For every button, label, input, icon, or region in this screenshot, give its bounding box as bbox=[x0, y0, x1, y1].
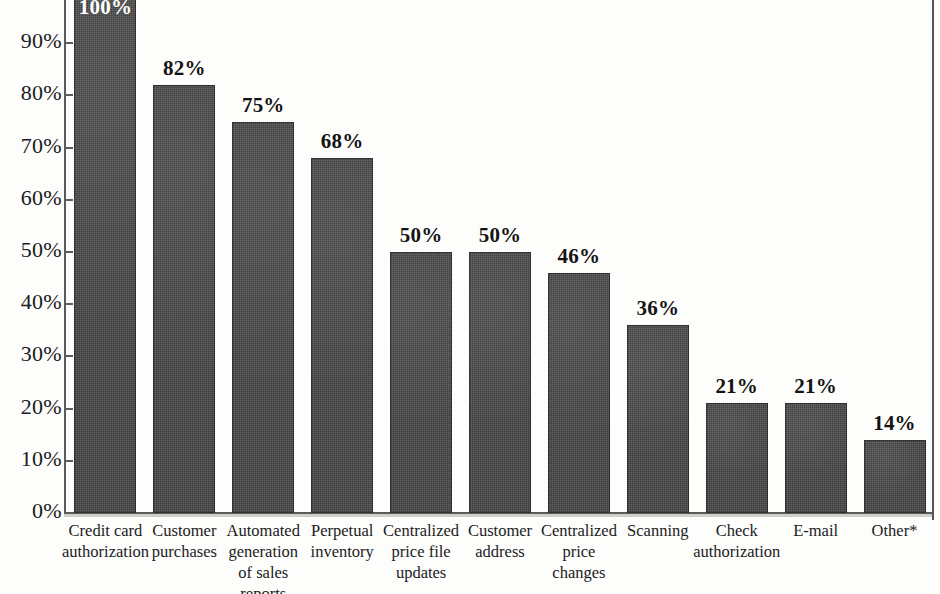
bar-value-label: 46% bbox=[534, 246, 624, 267]
plot-area: 100%90%80%70%60%50%40%30%20%10%0% 100%Cr… bbox=[0, 0, 940, 594]
y-axis-tick-label: 0% bbox=[32, 500, 62, 522]
bar bbox=[232, 122, 294, 514]
bar-value-label: 75% bbox=[218, 95, 308, 116]
bar bbox=[785, 403, 847, 513]
bar-value-label: 82% bbox=[139, 58, 229, 79]
bar bbox=[153, 85, 215, 513]
x-axis-category-label: Other* bbox=[848, 520, 940, 541]
bar bbox=[548, 273, 610, 513]
y-axis-tick-label: 40% bbox=[21, 291, 62, 313]
x-axis-baseline-shadow bbox=[64, 514, 932, 517]
y-axis-line bbox=[64, 0, 66, 514]
bar bbox=[864, 440, 926, 513]
y-axis-tick-label: 50% bbox=[21, 239, 62, 261]
bar bbox=[469, 252, 531, 513]
y-axis-tick bbox=[64, 147, 73, 149]
y-axis-tick bbox=[64, 460, 73, 462]
bar-value-label: 36% bbox=[613, 298, 703, 319]
y-axis-tick bbox=[64, 303, 73, 305]
bar bbox=[627, 325, 689, 513]
bar-value-label: 50% bbox=[455, 225, 545, 246]
bar bbox=[706, 403, 768, 513]
y-axis-tick-label: 10% bbox=[21, 448, 62, 470]
y-axis-tick-label: 60% bbox=[21, 187, 62, 209]
y-axis-tick-label: 70% bbox=[21, 135, 62, 157]
y-axis-tick-label: 20% bbox=[21, 396, 62, 418]
bar-value-label: 14% bbox=[850, 413, 940, 434]
y-axis-tick bbox=[64, 408, 73, 410]
y-axis-tick bbox=[64, 94, 73, 96]
y-axis-tick-label: 30% bbox=[21, 343, 62, 365]
bar-value-label: 21% bbox=[692, 376, 782, 397]
y-axis-tick bbox=[64, 251, 73, 253]
y-axis-tick bbox=[64, 355, 73, 357]
bar-value-label: 21% bbox=[771, 376, 861, 397]
bar-value-label: 100% bbox=[60, 0, 150, 18]
y-axis-tick-label: 80% bbox=[21, 82, 62, 104]
bar-value-label: 68% bbox=[297, 131, 387, 152]
bar bbox=[390, 252, 452, 513]
bar-value-label: 50% bbox=[376, 225, 466, 246]
bar bbox=[311, 158, 373, 513]
y-axis-tick bbox=[64, 42, 73, 44]
bar bbox=[74, 0, 136, 513]
y-axis-tick-label: 90% bbox=[21, 30, 62, 52]
y-axis-tick bbox=[64, 199, 73, 201]
bar-chart-figure: 100%90%80%70%60%50%40%30%20%10%0% 100%Cr… bbox=[0, 0, 940, 594]
